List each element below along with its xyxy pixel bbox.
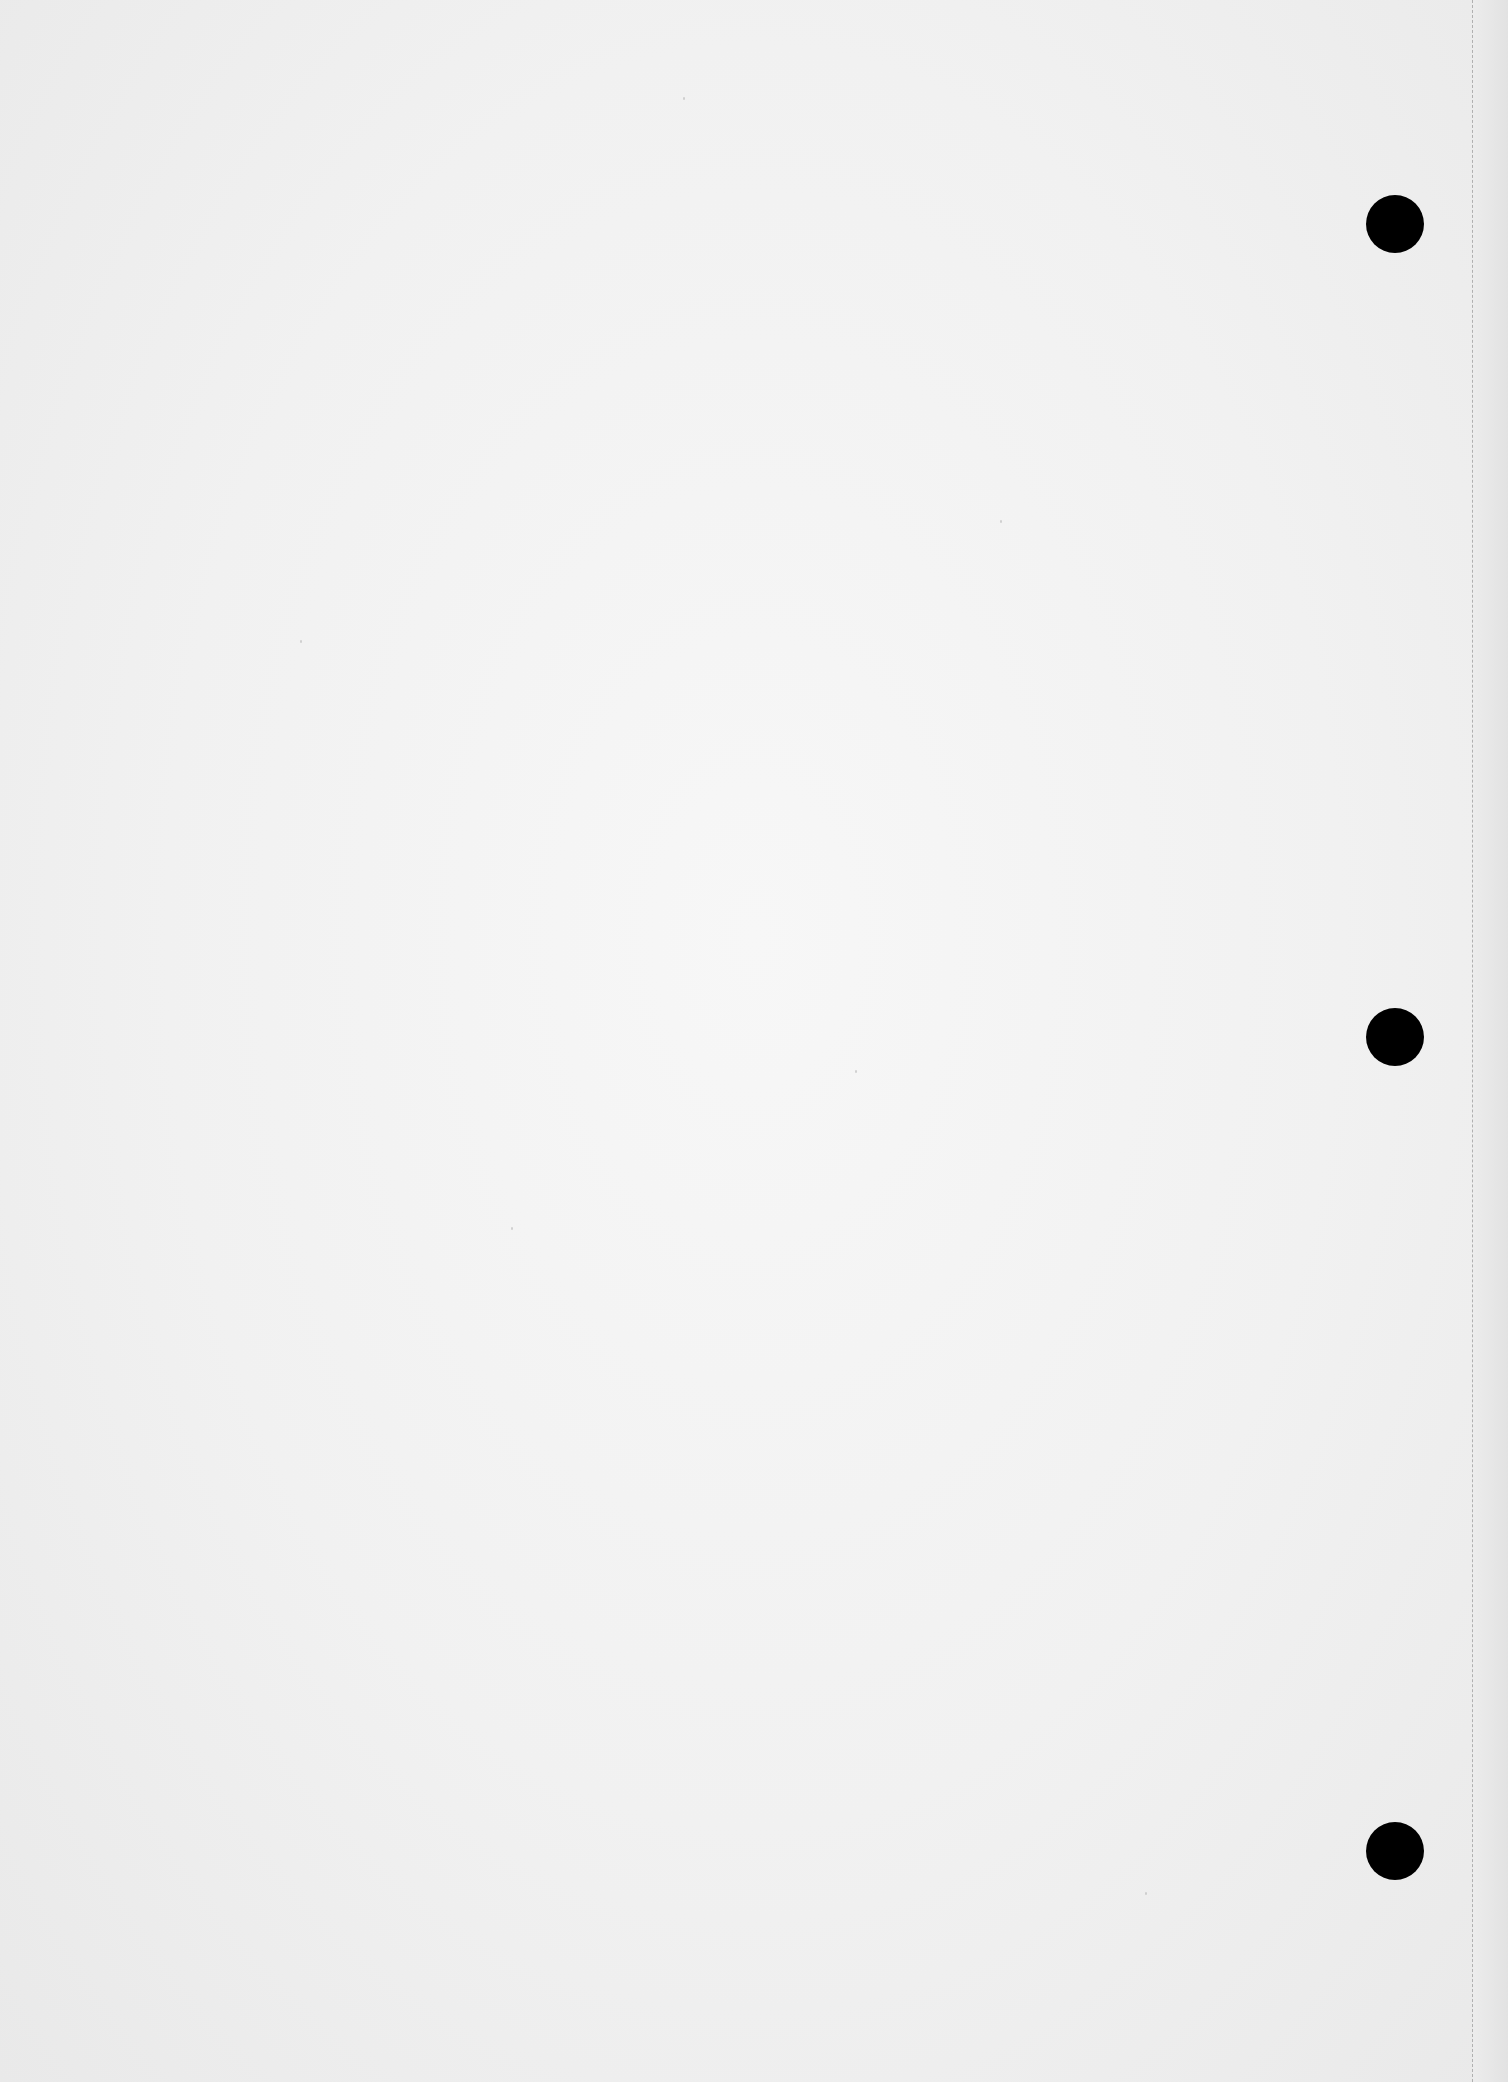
paper-speck	[511, 1227, 513, 1230]
punch-hole-middle	[1366, 1008, 1424, 1066]
paper-speck	[683, 97, 685, 100]
paper-speck	[1000, 520, 1002, 523]
punch-hole-top	[1366, 195, 1424, 253]
paper-speck	[855, 1070, 857, 1073]
blank-paper-sheet	[0, 0, 1508, 2082]
perforation-line	[1472, 0, 1473, 2082]
right-margin-strip	[1473, 0, 1508, 2082]
paper-speck	[300, 640, 302, 643]
punch-hole-bottom	[1366, 1822, 1424, 1880]
paper-speck	[1145, 1892, 1147, 1895]
